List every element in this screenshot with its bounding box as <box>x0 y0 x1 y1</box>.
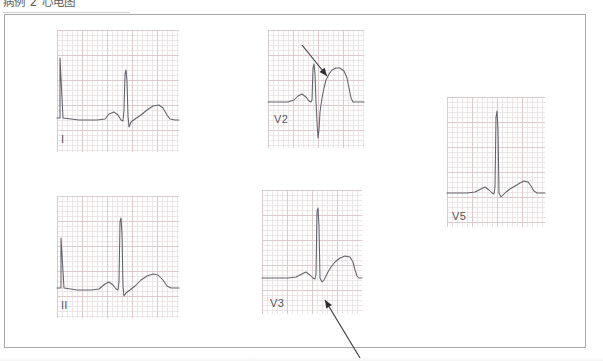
ecg-trace-lead-v2 <box>268 30 364 148</box>
ecg-panel-lead-v3: V3 <box>262 190 362 314</box>
ecg-trace-lead-v5 <box>447 97 545 227</box>
ecg-waveform <box>447 111 545 197</box>
lead-label-lead-v2: V2 <box>274 114 288 125</box>
ecg-waveform <box>262 208 362 282</box>
ecg-panel-lead-v2: V2 <box>268 30 364 148</box>
lead-label-lead-ii: II <box>61 300 68 311</box>
ecg-figure-frame: IIIV2V3V5 <box>4 14 586 348</box>
figure-caption: 病例 2 心电图 <box>3 0 76 9</box>
ecg-panel-lead-ii: II <box>57 196 179 318</box>
caption-underline <box>3 12 130 13</box>
lead-label-lead-v5: V5 <box>452 211 466 222</box>
ecg-trace-lead-v3 <box>262 190 362 314</box>
lead-label-lead-v3: V3 <box>270 298 284 309</box>
lead-label-lead-i: I <box>61 134 64 145</box>
ecg-trace-lead-i <box>57 30 179 152</box>
ecg-panel-lead-i: I <box>57 30 179 152</box>
ecg-waveform <box>57 218 179 296</box>
scan-edge-shadow <box>0 357 603 361</box>
ecg-panel-lead-v5: V5 <box>447 97 545 227</box>
ecg-trace-lead-ii <box>57 196 179 318</box>
ecg-waveform <box>57 58 179 127</box>
ecg-waveform <box>268 64 364 138</box>
